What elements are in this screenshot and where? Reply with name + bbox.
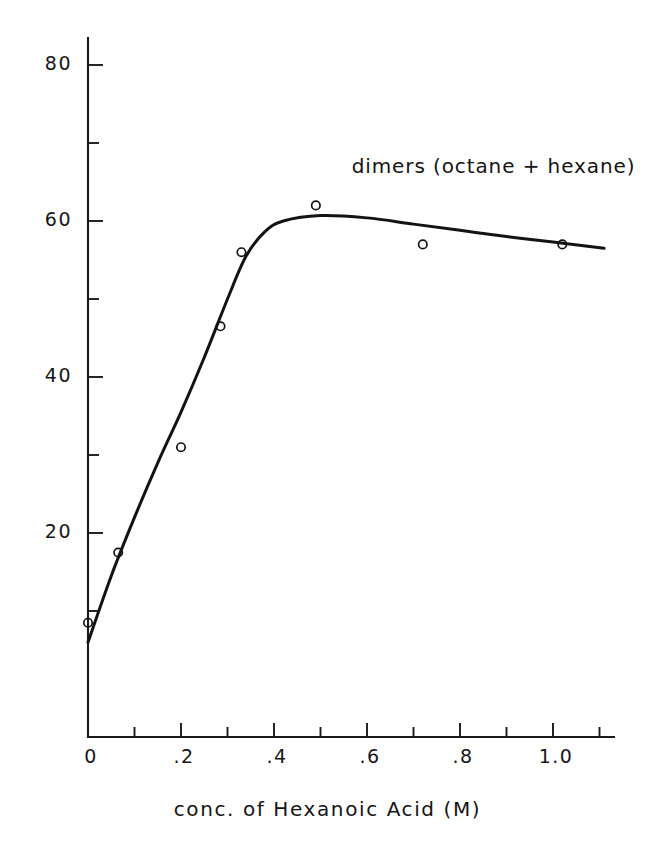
series-curve-dimers	[88, 215, 604, 642]
x-tick-label-.6: .6	[335, 745, 405, 767]
chart-figure: 20406080 0.2.4.6.81.0 dimers (octane + h…	[0, 0, 655, 841]
data-point-marker	[237, 248, 245, 256]
y-tick-label-80: 80	[14, 52, 72, 74]
x-tick-label-1.0: 1.0	[521, 745, 591, 767]
y-tick-label-60: 60	[14, 208, 72, 230]
x-axis-title: conc. of Hexanoic Acid (M)	[0, 797, 655, 821]
y-tick-label-20: 20	[14, 520, 72, 542]
x-tick-label-.4: .4	[242, 745, 312, 767]
x-tick-label-.2: .2	[149, 745, 219, 767]
data-markers-group	[84, 201, 567, 627]
data-point-marker	[419, 240, 427, 248]
x-tick-label-.8: .8	[428, 745, 498, 767]
series-annotation-label: dimers (octane + hexane)	[352, 154, 636, 178]
y-tick-label-40: 40	[14, 364, 72, 386]
data-curve-group	[88, 215, 604, 642]
chart-canvas	[0, 0, 655, 841]
data-point-marker	[312, 201, 320, 209]
axes-group	[88, 38, 614, 737]
data-point-marker	[177, 443, 185, 451]
x-tick-label-0: 0	[56, 745, 126, 767]
